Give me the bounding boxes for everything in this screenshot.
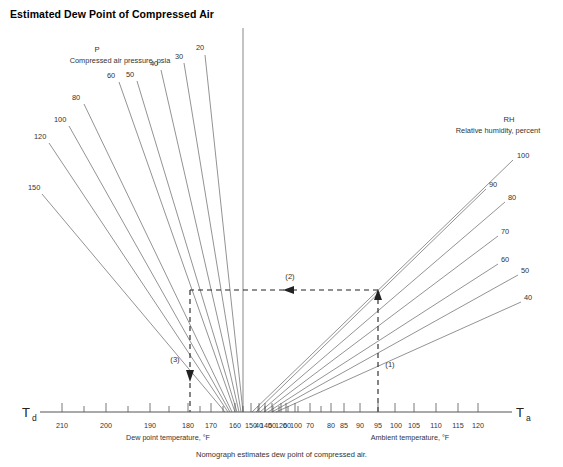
humidity-label-50: 50 <box>521 266 529 275</box>
humidity-label-90: 90 <box>489 180 497 189</box>
pressure-curve-120 <box>49 143 228 412</box>
dewpoint-tick-label-100: 100 <box>290 421 302 430</box>
pressure-label-20: 20 <box>196 43 204 52</box>
humidity-curve-100 <box>252 160 513 412</box>
nomograph-figure: P Compressed air pressure, psia 20 30 40… <box>0 0 563 467</box>
ambient-tick-label-115: 115 <box>452 421 463 430</box>
dewpoint-tick-label-200: 200 <box>100 421 112 430</box>
step3-label: (3) <box>170 355 180 364</box>
pressure-label-100: 100 <box>54 115 66 124</box>
humidity-curve-80 <box>260 202 505 412</box>
dewpoint-tick-label-180: 180 <box>182 421 194 430</box>
step2-arrowhead-icon <box>283 286 294 294</box>
humidity-label-70: 70 <box>501 227 509 236</box>
humidity-label-100: 100 <box>517 151 529 160</box>
humidity-curve-group <box>252 160 521 412</box>
figure-caption: Nomograph estimates dew point of compres… <box>0 450 563 459</box>
ambient-tick-label-60: 60 <box>283 421 291 430</box>
step1-label: (1) <box>385 360 395 369</box>
dewpoint-axis-subscript: d <box>32 413 37 423</box>
dewpoint-tick-label-190: 190 <box>144 421 156 430</box>
ambient-tick-label-85: 85 <box>340 421 348 430</box>
humidity-curve-90 <box>256 189 486 412</box>
dewpoint-tick-label-160: 160 <box>229 421 241 430</box>
pressure-label-80: 80 <box>72 93 80 102</box>
dewpoint-axis-caption: Dew point temperature, °F <box>126 433 211 442</box>
dewpoint-tick-label-170: 170 <box>205 421 217 430</box>
dewpoint-tick-label-210: 210 <box>56 421 68 430</box>
pressure-curve-50 <box>137 81 237 412</box>
ambient-axis: 40 50 60 70 80 85 90 95 100 105 110 115 … <box>243 403 531 442</box>
dewpoint-axis-symbol: T <box>22 405 30 420</box>
pressure-curve-group <box>42 55 243 412</box>
ambient-tick-label-100: 100 <box>390 421 402 430</box>
humidity-label-80: 80 <box>508 193 516 202</box>
ambient-axis-symbol: T <box>516 405 524 420</box>
ambient-tick-label-70: 70 <box>306 421 314 430</box>
humidity-curve-70 <box>264 236 498 412</box>
pressure-label-150: 150 <box>28 183 40 192</box>
nomograph-page: Estimated Dew Point of Compressed Air P … <box>0 0 563 467</box>
ambient-tick-label-80: 80 <box>327 421 335 430</box>
ambient-tick-label-40: 40 <box>255 421 263 430</box>
ambient-axis-caption: Ambient temperature, °F <box>371 433 450 442</box>
humidity-label-60: 60 <box>501 255 509 264</box>
ambient-axis-subscript: a <box>526 413 531 423</box>
humidity-label-40: 40 <box>524 293 532 302</box>
ambient-tick-label-95: 95 <box>374 421 382 430</box>
step2-label: (2) <box>285 272 295 281</box>
pressure-label-50: 50 <box>126 70 134 79</box>
pressure-curve-150 <box>42 194 225 412</box>
step3-arrowhead-icon <box>186 370 194 382</box>
humidity-curve-50 <box>272 275 518 412</box>
ambient-tick-label-105: 105 <box>408 421 420 430</box>
humidity-group-description: Relative humidity, percent <box>456 126 540 135</box>
ambient-tick-label-110: 110 <box>430 421 441 430</box>
pressure-label-60: 60 <box>107 71 115 80</box>
ambient-tick-label-90: 90 <box>356 421 364 430</box>
pressure-label-40: 40 <box>150 59 158 68</box>
pressure-group-symbol: P <box>94 45 99 54</box>
pressure-curve-30 <box>184 63 241 412</box>
pressure-curve-20 <box>205 55 243 412</box>
pressure-label-120: 120 <box>34 132 46 141</box>
humidity-curve-60 <box>268 264 498 412</box>
ambient-tick-label-50: 50 <box>268 421 276 430</box>
ambient-tick-label-120: 120 <box>472 421 484 430</box>
pressure-label-30: 30 <box>175 52 183 61</box>
humidity-group-symbol: RH <box>504 115 515 124</box>
